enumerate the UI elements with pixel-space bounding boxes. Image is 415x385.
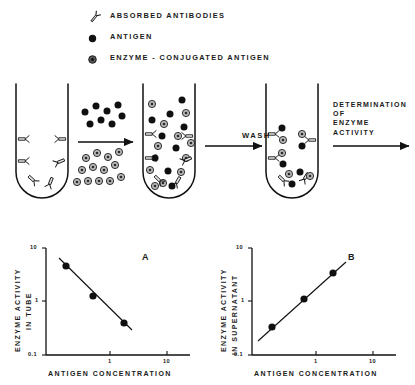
legend-item-antigen: ANTIGEN	[86, 29, 386, 50]
chart-a	[42, 248, 190, 355]
antigen-dot-icon	[86, 29, 104, 47]
data-point	[120, 319, 127, 326]
elisa-figure: ABSORBED ANTIBODIES ANTIGEN ENZYME - CON…	[0, 0, 415, 385]
determination-line-4: ACTIVITY	[333, 128, 407, 137]
data-point	[268, 323, 275, 330]
chart-b-xtick-10: 10	[369, 358, 376, 364]
chart-a-xtick-1: 1	[108, 358, 112, 364]
antibody-y-icon	[86, 8, 104, 26]
chart-b-ytick-10: 10	[236, 244, 243, 250]
chart-a-ylabel-line1: ENZYME ACTIVITY	[14, 268, 21, 352]
chart-a-ytick-0-1: 0.1	[28, 351, 37, 357]
tube-incubated-mixture	[143, 84, 195, 198]
chart-b-xlabel: ANTIGEN CONCENTRATION	[254, 370, 378, 377]
determination-line-1: DETERMINATION	[333, 100, 407, 109]
tube1-antibodies	[18, 135, 65, 189]
legend-label-enzyme-conjugated-antigen: ENZYME - CONJUGATED ANTIGEN	[110, 53, 270, 62]
tube3-bound-complexes	[268, 125, 315, 188]
determination-label: DETERMINATION OF ENZYME ACTIVITY	[333, 100, 407, 137]
chart-b-xtick-1: 1	[314, 358, 318, 364]
chart-a-ytick-1: 1	[35, 297, 39, 303]
data-point	[300, 295, 307, 302]
data-point	[62, 262, 69, 269]
tube-coated-antibody	[16, 84, 68, 198]
panel-letter-b: B	[348, 252, 355, 262]
chart-b-ytick-1: 1	[241, 297, 245, 303]
legend-label-antigen: ANTIGEN	[110, 32, 153, 41]
determination-line-2: OF	[333, 109, 407, 118]
legend: ABSORBED ANTIBODIES ANTIGEN ENZYME - CON…	[86, 8, 386, 71]
legend-item-absorbed-antibodies: ABSORBED ANTIBODIES	[86, 8, 386, 29]
chart-a-xtick-10: 10	[163, 358, 170, 364]
wash-label: WASH	[242, 131, 271, 140]
chart-b-ylabel-line1: ENZYME ACTIVITY	[220, 268, 227, 352]
determination-line-3: ENZYME	[333, 118, 407, 127]
reagent-cloud-antigen	[82, 102, 126, 128]
data-point	[89, 292, 96, 299]
reagent-cloud-conjugate	[73, 148, 124, 185]
tube-washed	[266, 84, 318, 198]
chart-a-xlabel: ANTIGEN CONCENTRATION	[48, 370, 172, 377]
chart-b	[248, 248, 396, 355]
enzyme-conjugate-icon	[86, 50, 104, 68]
chart-a-ylabel-line2: IN TUBE	[25, 292, 32, 330]
tube2-free-particles	[146, 97, 194, 190]
panel-letter-a: A	[142, 252, 149, 262]
data-point	[329, 269, 336, 276]
chart-b-ylabel-line2: IN SUPERNATANT	[231, 275, 238, 355]
chart-a-ytick-10: 10	[30, 244, 37, 250]
legend-item-enzyme-conjugated-antigen: ENZYME - CONJUGATED ANTIGEN	[86, 50, 386, 71]
legend-label-absorbed-antibodies: ABSORBED ANTIBODIES	[110, 11, 225, 20]
tube2-antibodies	[145, 130, 192, 188]
